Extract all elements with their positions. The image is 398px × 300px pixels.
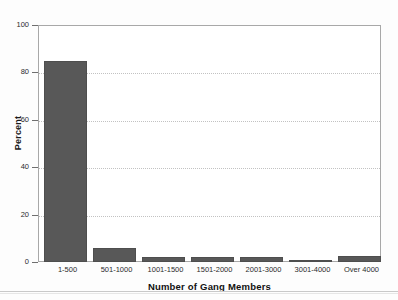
bar-3001-4000[interactable] bbox=[289, 260, 332, 262]
y-axis-title: Percent bbox=[13, 93, 23, 173]
page-rule-line bbox=[0, 291, 398, 292]
bar-over-4000[interactable] bbox=[338, 256, 381, 262]
bar-1-500[interactable] bbox=[44, 61, 87, 263]
ytick-label-0: 0 bbox=[2, 258, 29, 266]
ytick-label-100: 100 bbox=[2, 21, 29, 29]
ytick-label-20: 20 bbox=[2, 211, 29, 219]
x-axis-tick-labels: 1-500 501-1000 1001-1500 1501-2000 2001-… bbox=[38, 265, 381, 279]
bar-1001-1500[interactable] bbox=[142, 257, 185, 262]
ytick-mark-0 bbox=[32, 262, 38, 263]
bar-1501-2000[interactable] bbox=[191, 257, 234, 262]
bar-chart: 100 80 60 40 20 0 Percent 1-500 501-1000… bbox=[0, 0, 398, 300]
xtick-label-over-4000: Over 4000 bbox=[330, 265, 393, 274]
bar-series bbox=[38, 25, 381, 262]
bar-501-1000[interactable] bbox=[93, 248, 136, 262]
bar-2001-3000[interactable] bbox=[240, 257, 283, 262]
page-rule-line-secondary bbox=[0, 293, 398, 294]
page-background: 100 80 60 40 20 0 Percent 1-500 501-1000… bbox=[0, 0, 398, 300]
ytick-label-80: 80 bbox=[2, 68, 29, 76]
